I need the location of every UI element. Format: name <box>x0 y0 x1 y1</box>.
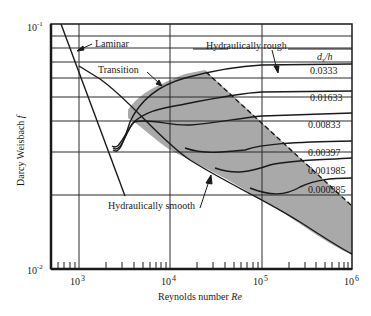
y-tick-bottom: 10-2 <box>27 263 43 276</box>
roughness-labels: 0.0333 0.01633 0.00833 0.00397 0.001985 … <box>308 65 346 195</box>
rough-arrowhead <box>274 66 279 73</box>
smooth-arrowhead <box>206 175 212 184</box>
x-tick-1e3: 103 <box>70 274 85 287</box>
y-axis-label: Darcy Weisbach f <box>15 114 26 186</box>
roughness-label: 0.01633 <box>310 92 343 103</box>
x-tick-1e5: 105 <box>253 274 268 287</box>
annotation-laminar: Laminar <box>95 38 130 49</box>
annotation-transition: Transition <box>98 64 139 75</box>
roughness-label: 0.0333 <box>310 65 338 76</box>
x-axis-label: Reynolds number Re <box>158 291 242 302</box>
roughness-label: 0.00397 <box>308 147 341 158</box>
moody-chart: 10-1 10-2 103 104 105 106 Reynolds numbe… <box>0 0 371 316</box>
x-tick-1e4: 104 <box>161 274 176 287</box>
annotation-rough: Hydraulically rough <box>206 40 287 51</box>
roughness-label: 0.001985 <box>308 165 346 176</box>
x-tick-1e6: 106 <box>344 274 359 287</box>
roughness-label: 0.000985 <box>308 184 346 195</box>
annotation-smooth: Hydraulically smooth <box>108 200 195 211</box>
y-tick-top: 10-1 <box>27 20 43 33</box>
roughness-label: 0.00833 <box>308 119 341 130</box>
laminar-line <box>61 24 125 196</box>
